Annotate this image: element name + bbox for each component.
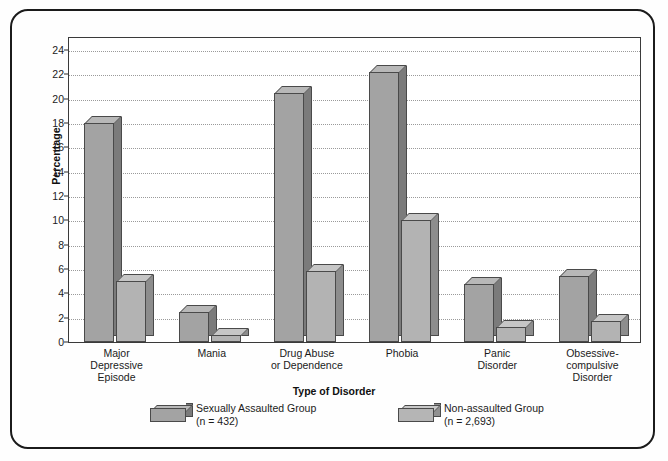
bar — [306, 271, 336, 342]
y-axis-tick-label: 16 — [42, 142, 64, 153]
bar — [496, 327, 526, 342]
y-axis-tick-label: 4 — [42, 288, 64, 299]
bar — [211, 335, 241, 342]
y-axis-tick-label: 6 — [42, 264, 64, 275]
y-axis-tick-label: 14 — [42, 167, 64, 178]
bars-layer — [69, 38, 640, 342]
y-axis-tick-label: 2 — [42, 312, 64, 323]
bar-side-face — [146, 275, 154, 336]
x-axis-category-label-line: or Dependence — [249, 359, 364, 371]
bar — [116, 281, 146, 342]
y-axis-tick-label: 12 — [42, 191, 64, 202]
x-axis-category-label-line: Obsessive- — [535, 347, 650, 359]
legend-label-sample-size: (n = 432) — [196, 415, 316, 428]
y-axis-tick-label: 18 — [42, 118, 64, 129]
y-axis-tick-label: 24 — [42, 45, 64, 56]
bar — [591, 321, 621, 342]
bar-front-face — [116, 281, 146, 342]
bar-front-face — [179, 312, 209, 342]
bar — [274, 93, 304, 342]
bar-front-face — [211, 335, 241, 342]
bar-front-face — [464, 284, 494, 342]
y-axis-tick-labels: 024681012141618202224 — [40, 37, 64, 343]
x-axis-category-label-line: compulsive — [535, 359, 650, 371]
legend-label-name: Non-assaulted Group — [444, 402, 544, 415]
x-axis-category-label-line: Episode — [59, 371, 174, 383]
legend-swatch-icon — [150, 406, 186, 422]
bar — [369, 72, 399, 342]
bar — [179, 312, 209, 342]
legend-entry: Non-assaulted Group(n = 2,693) — [398, 402, 544, 428]
bar-front-face — [559, 276, 589, 342]
bar-front-face — [274, 93, 304, 342]
x-axis-category-label-line: Disorder — [535, 371, 650, 383]
bar-front-face — [84, 123, 114, 342]
bar — [464, 284, 494, 342]
bar-front-face — [591, 321, 621, 342]
legend-label-name: Sexually Assaulted Group — [196, 402, 316, 415]
legend-label: Sexually Assaulted Group(n = 432) — [196, 402, 316, 428]
legend-entry: Sexually Assaulted Group(n = 432) — [150, 402, 316, 428]
y-axis-tick-label: 20 — [42, 94, 64, 105]
legend-label-sample-size: (n = 2,693) — [444, 415, 544, 428]
legend-label: Non-assaulted Group(n = 2,693) — [444, 402, 544, 428]
x-axis-category-label: Obsessive-compulsiveDisorder — [535, 347, 650, 383]
x-axis-category-label-line: Depressive — [59, 359, 174, 371]
bar — [84, 123, 114, 342]
figure-container: Percentage 024681012141618202224 MajorDe… — [0, 0, 668, 461]
y-axis-tick-label: 0 — [42, 337, 64, 348]
legend-swatch-front-face — [398, 408, 434, 422]
bar-front-face — [496, 327, 526, 342]
chart-legend: Sexually Assaulted Group(n = 432)Non-ass… — [150, 402, 580, 444]
bar-side-face — [431, 214, 439, 336]
bar-front-face — [401, 220, 431, 342]
bar-front-face — [369, 72, 399, 342]
x-axis-title: Type of Disorder — [0, 385, 668, 397]
legend-swatch-front-face — [150, 408, 186, 422]
y-axis-tick-label: 10 — [42, 215, 64, 226]
legend-swatch-icon — [398, 406, 434, 422]
bar-side-face — [336, 265, 344, 336]
y-axis-tick-label: 8 — [42, 239, 64, 250]
y-axis-tick-label: 22 — [42, 69, 64, 80]
bar — [559, 276, 589, 342]
bar — [401, 220, 431, 342]
bar-front-face — [306, 271, 336, 342]
